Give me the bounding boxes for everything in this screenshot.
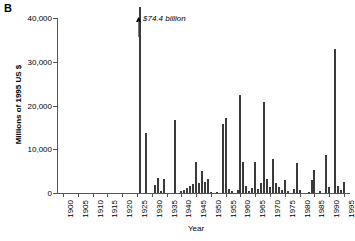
x-tick-mark xyxy=(285,193,286,197)
y-tick-mark xyxy=(53,62,57,63)
bar xyxy=(204,182,206,193)
bar xyxy=(154,185,156,193)
x-axis-title: Year xyxy=(188,224,204,233)
bar xyxy=(287,191,289,193)
bar xyxy=(195,162,197,194)
y-tick-mark xyxy=(53,149,57,150)
bar xyxy=(278,187,280,193)
x-tick-label: 1965 xyxy=(258,200,267,218)
x-tick-mark xyxy=(314,193,315,197)
bar xyxy=(237,190,239,193)
bar xyxy=(254,162,256,193)
bar xyxy=(210,192,212,193)
bar xyxy=(311,180,313,193)
x-tick-label: 1910 xyxy=(96,200,105,218)
x-tick-label: 1995 xyxy=(347,200,355,218)
bar xyxy=(186,188,188,193)
panel-label: B xyxy=(4,3,12,14)
bar xyxy=(216,192,218,193)
bar xyxy=(281,190,283,193)
x-tick-label: 1935 xyxy=(170,200,179,218)
y-tick-mark xyxy=(53,106,57,107)
bar xyxy=(222,124,224,193)
x-tick-mark xyxy=(240,193,241,197)
x-tick-label: 1950 xyxy=(214,200,223,218)
x-tick-mark xyxy=(78,193,79,197)
y-axis-title: Millions of 1995 US $ xyxy=(14,40,23,170)
x-tick-label: 1975 xyxy=(288,200,297,218)
y-tick-label: 0 xyxy=(48,189,52,198)
y-tick-label: 20,000 xyxy=(28,101,52,110)
bar xyxy=(325,155,327,193)
x-tick-mark xyxy=(344,193,345,197)
value-annotation: $74.4 billion xyxy=(143,14,186,23)
x-tick-mark xyxy=(300,193,301,197)
bar xyxy=(198,183,200,193)
bar xyxy=(239,95,241,193)
bar xyxy=(260,183,262,193)
x-tick-label: 1940 xyxy=(184,200,193,218)
x-tick-mark xyxy=(122,193,123,197)
bar xyxy=(296,163,298,193)
bar xyxy=(145,133,147,193)
x-tick-label: 1920 xyxy=(125,200,134,218)
bar xyxy=(284,180,286,193)
bar xyxy=(231,191,233,193)
x-tick-mark xyxy=(196,193,197,197)
x-tick-label: 1905 xyxy=(81,200,90,218)
bar xyxy=(163,179,165,193)
x-tick-label: 1900 xyxy=(66,200,75,218)
bar xyxy=(157,178,159,193)
bar xyxy=(180,191,182,193)
y-tick-label: 40,000 xyxy=(28,14,52,23)
bar xyxy=(242,162,244,194)
bar xyxy=(160,191,162,193)
x-tick-label: 1990 xyxy=(332,200,341,218)
bar xyxy=(201,171,203,193)
x-tick-mark xyxy=(137,193,138,197)
bar xyxy=(183,190,185,194)
bar xyxy=(174,120,176,193)
bar xyxy=(228,189,230,193)
bar xyxy=(334,49,336,193)
x-axis-line xyxy=(57,193,350,194)
bar xyxy=(266,179,268,193)
x-tick-mark xyxy=(107,193,108,197)
bar xyxy=(248,191,250,193)
x-tick-label: 1960 xyxy=(243,200,252,218)
x-tick-label: 1945 xyxy=(199,200,208,218)
x-tick-label: 1985 xyxy=(317,200,326,218)
bar xyxy=(269,187,271,193)
x-tick-mark xyxy=(63,193,64,197)
x-tick-label: 1970 xyxy=(273,200,282,218)
bar xyxy=(313,170,315,193)
bar xyxy=(245,186,247,193)
bar xyxy=(263,102,265,193)
x-tick-mark xyxy=(167,193,168,197)
y-tick-mark xyxy=(53,193,57,194)
x-tick-mark xyxy=(211,193,212,197)
bar xyxy=(343,182,345,193)
x-tick-mark xyxy=(270,193,271,197)
x-tick-label: 1955 xyxy=(229,200,238,218)
bar xyxy=(189,186,191,193)
x-tick-mark xyxy=(255,193,256,197)
bar xyxy=(272,159,274,193)
bar xyxy=(257,189,259,193)
x-tick-mark xyxy=(181,193,182,197)
x-tick-mark xyxy=(329,193,330,197)
x-tick-mark xyxy=(93,193,94,197)
x-tick-mark xyxy=(152,193,153,197)
x-tick-label: 1915 xyxy=(110,200,119,218)
y-tick-mark xyxy=(53,18,57,19)
figure-panel-b: B Millions of 1995 US $ 010,00020,00030,… xyxy=(0,0,355,241)
x-tick-label: 1930 xyxy=(155,200,164,218)
bar xyxy=(308,192,310,193)
bar xyxy=(293,189,295,193)
bar xyxy=(337,186,339,193)
bar xyxy=(328,187,330,193)
bar xyxy=(251,188,253,193)
bar xyxy=(225,118,227,193)
y-tick-label: 30,000 xyxy=(28,57,52,66)
bar xyxy=(319,191,321,193)
